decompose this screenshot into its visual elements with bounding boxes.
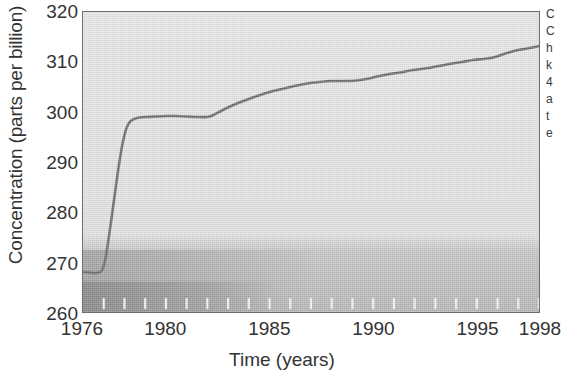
plot-area bbox=[82, 11, 540, 313]
cropped-caption-fragment: CChk4ate bbox=[546, 6, 558, 206]
y-tick-label: 320 bbox=[30, 2, 78, 21]
caption-fragment-line: k bbox=[546, 57, 558, 74]
y-tick-label: 290 bbox=[30, 153, 78, 172]
x-axis-title-text: Time (years) bbox=[229, 349, 335, 371]
x-tick-label: 1980 bbox=[144, 318, 186, 340]
x-tick-label: 1998 bbox=[519, 318, 561, 340]
y-tick-label: 300 bbox=[30, 103, 78, 122]
x-tick-label: 1995 bbox=[456, 318, 498, 340]
x-tick-label: 1985 bbox=[248, 318, 290, 340]
caption-fragment-line: h bbox=[546, 40, 558, 57]
x-tick-label: 1976 bbox=[61, 318, 103, 340]
y-tick-label: 270 bbox=[30, 254, 78, 273]
y-tick-label: 310 bbox=[30, 52, 78, 71]
caption-fragment-line: e bbox=[546, 125, 558, 142]
x-tick-label: 1990 bbox=[352, 318, 394, 340]
caption-fragment-line: t bbox=[546, 108, 558, 125]
x-axis-tick-labels: 197619801985199019951998 bbox=[0, 318, 558, 344]
caption-fragment-line: a bbox=[546, 91, 558, 108]
y-tick-label: 280 bbox=[30, 203, 78, 222]
caption-fragment-line: C bbox=[546, 6, 558, 23]
caption-fragment-line: C bbox=[546, 23, 558, 40]
x-minor-tick-marks bbox=[104, 298, 539, 309]
x-axis-title: Time (years) bbox=[0, 349, 558, 371]
concentration-line bbox=[83, 46, 539, 273]
caption-fragment-line: 4 bbox=[546, 74, 558, 91]
data-line-svg bbox=[83, 12, 539, 312]
